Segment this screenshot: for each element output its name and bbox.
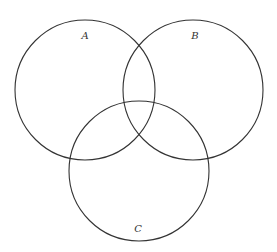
venn-diagram: A B C [0, 0, 277, 252]
set-c-circle [69, 101, 209, 241]
set-b-circle [123, 20, 263, 160]
set-c-label: C [134, 223, 142, 234]
set-a-label: A [80, 30, 88, 41]
set-b-label: B [190, 30, 198, 41]
set-a-circle [15, 20, 155, 160]
